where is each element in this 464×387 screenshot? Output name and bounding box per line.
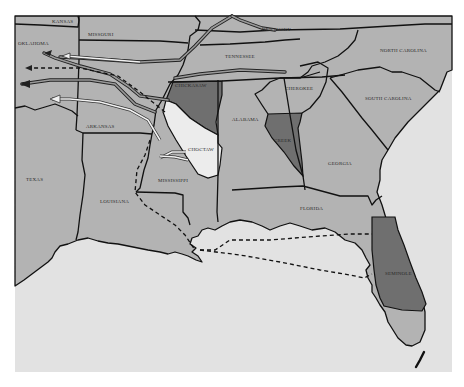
label-north-carolina: NORTH CAROLINA [380,48,427,53]
label-missouri: MISSOURI [88,32,114,37]
label-alabama: ALABAMA [232,117,259,122]
label-kentucky: KENTUCKY [262,27,291,32]
label-creek: CREEK [274,138,292,143]
label-arkansas: ARKANSAS [86,124,115,129]
label-tennessee: TENNESSEE [225,54,255,59]
label-south-carolina: SOUTH CAROLINA [365,96,412,101]
removal-routes-map: KANSAS MISSOURI KENTUCKY OKLAHOMA TENNES… [0,0,464,387]
label-oklahoma: OKLAHOMA [18,41,49,46]
label-choctaw: CHOCTAW [188,147,214,152]
label-cherokee: CHEROKEE [285,86,313,91]
label-texas: TEXAS [26,177,43,182]
label-chickasaw: CHICKASAW [175,83,207,88]
label-seminole: SEMINOLE [385,271,412,276]
label-mississippi: MISSISSIPPI [158,178,188,183]
label-louisiana: LOUISIANA [100,199,129,204]
label-kansas: KANSAS [52,19,73,24]
label-georgia: GEORGIA [328,161,352,166]
label-florida: FLORIDA [300,206,323,211]
